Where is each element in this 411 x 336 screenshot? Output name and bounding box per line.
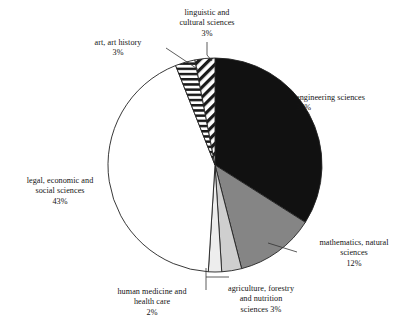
- pie-label-engineering-sciences: engineering sciences 34%: [296, 93, 408, 114]
- pie-label-human-medicine-health-care: human medicine and health care 2%: [98, 287, 206, 318]
- pie-slices: [108, 58, 322, 272]
- pie-label-art-art-history: art, art history 3%: [62, 38, 174, 59]
- pie-label-legal-economic-social-sciences: legal, economic and social sciences 43%: [2, 176, 118, 207]
- pie-chart: linguistic and cultural sciences 3% art,…: [0, 0, 411, 336]
- pie-label-agriculture-forestry-nutrition: agriculture, forestry and nutrition scie…: [206, 284, 316, 315]
- pie-label-mathematics-natural-sciences: mathematics, natural sciences 12%: [300, 238, 408, 269]
- pie-label-linguistic-cultural-sciences: linguistic and cultural sciences 3%: [148, 8, 266, 39]
